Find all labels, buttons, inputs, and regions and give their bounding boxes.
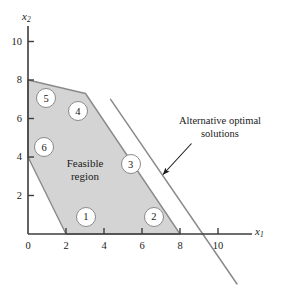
region-marker-5-label: 5: [43, 93, 48, 104]
feasible-region-label-line2: region: [67, 170, 104, 183]
region-marker-4-label: 4: [75, 106, 80, 117]
x-axis-title: x1: [255, 226, 264, 237]
region-marker-2-label: 2: [151, 211, 156, 222]
region-marker-1: 1: [76, 207, 96, 227]
annotation-label-line2: solutions: [179, 128, 261, 141]
y-axis-title-subscript: 2: [27, 15, 31, 24]
feasible-region-label-line1: Feasible: [67, 157, 104, 170]
region-marker-4: 4: [68, 101, 88, 121]
y-tick-label-6: 6: [4, 113, 22, 124]
y-tick-label-4: 4: [4, 152, 22, 163]
annotation-label-line1: Alternative optimal: [179, 115, 261, 128]
annotation-arrow: [163, 144, 192, 175]
x-tick-label-8: 8: [177, 241, 182, 252]
region-marker-3-label: 3: [128, 159, 133, 170]
y-tick-label-2: 2: [4, 190, 22, 201]
y-tick-label-8: 8: [4, 75, 22, 86]
alternative-optimal-solutions-label: Alternative optimal solutions: [179, 115, 261, 140]
x-tick-label-10: 10: [213, 241, 224, 252]
region-marker-2: 2: [144, 207, 164, 227]
region-marker-6-label: 6: [42, 142, 47, 153]
x-tick-label-6: 6: [139, 241, 144, 252]
x-axis-title-subscript: 1: [260, 230, 264, 239]
region-marker-5: 5: [36, 88, 56, 108]
y-tick-label-10: 10: [4, 36, 22, 47]
feasible-region-label: Feasible region: [67, 157, 104, 182]
x-tick-label-2: 2: [63, 241, 68, 252]
feasible-region-figure: x1 x2 10 8 6 4 2 0 2 4 6 8 10 Feasible r…: [0, 0, 287, 293]
region-marker-3: 3: [121, 154, 141, 174]
region-marker-6: 6: [34, 137, 54, 157]
x-tick-label-4: 4: [101, 241, 106, 252]
region-marker-1-label: 1: [83, 211, 88, 222]
x-tick-label-0: 0: [25, 241, 30, 252]
y-axis-title: x2: [22, 11, 31, 22]
